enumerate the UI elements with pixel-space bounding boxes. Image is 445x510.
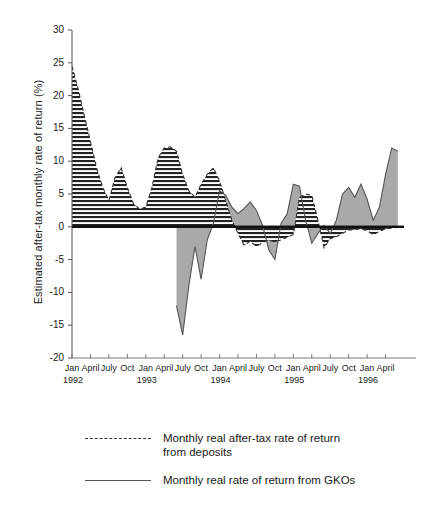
plot-area [0, 0, 445, 400]
legend-swatch-dashed-line [85, 432, 151, 444]
legend-swatch-solid-line [85, 474, 151, 486]
legend-label-gkos: Monthly real rate of return from GKOs [163, 474, 355, 488]
legend-label-deposits: Monthly real after-tax rate of return fr… [163, 432, 340, 459]
legend-item-gkos: Monthly real rate of return from GKOs [85, 474, 355, 488]
legend-item-deposits: Monthly real after-tax rate of return fr… [85, 432, 340, 459]
chart-figure: Estimated after-tax monthly rate of retu… [0, 0, 445, 510]
